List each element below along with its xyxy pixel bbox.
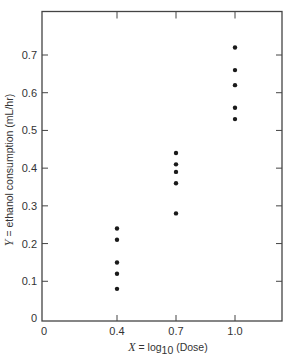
plot-frame: [42, 12, 282, 322]
x-axis-ticks: 00.40.71.0: [41, 12, 243, 338]
data-point: [115, 226, 119, 230]
data-point: [233, 83, 237, 87]
y-tick-label: 0.2: [22, 238, 37, 250]
y-tick-label: 0.1: [22, 275, 37, 287]
data-point: [174, 211, 178, 215]
data-points: [115, 45, 237, 291]
y-axis-ticks: 00.10.20.30.40.50.60.7: [22, 49, 282, 324]
x-axis-title: X = log10 (Dose): [127, 340, 207, 356]
x-tick-label: 0.7: [168, 325, 183, 337]
data-point: [174, 151, 178, 155]
data-point: [115, 272, 119, 276]
x-tick-label: 0: [41, 325, 47, 337]
data-point: [174, 170, 178, 174]
y-axis-title: Y = ethanol consumption (mL/hr): [2, 94, 16, 246]
data-point: [233, 68, 237, 72]
y-tick-label: 0.5: [22, 124, 37, 136]
data-point: [233, 106, 237, 110]
scatter-chart: 00.10.20.30.40.50.60.7 00.40.71.0 X = lo…: [0, 0, 292, 358]
data-point: [115, 238, 119, 242]
y-tick-label: 0.6: [22, 87, 37, 99]
y-tick-label: 0.7: [22, 49, 37, 61]
data-point: [115, 287, 119, 291]
y-tick-label: 0.3: [22, 200, 37, 212]
data-point: [115, 260, 119, 264]
data-point: [233, 117, 237, 121]
data-point: [233, 45, 237, 49]
x-tick-label: 0.4: [109, 325, 124, 337]
x-tick-label: 1.0: [227, 325, 242, 337]
data-point: [174, 162, 178, 166]
data-point: [174, 181, 178, 185]
y-tick-label: 0: [31, 312, 37, 324]
y-tick-label: 0.4: [22, 162, 37, 174]
